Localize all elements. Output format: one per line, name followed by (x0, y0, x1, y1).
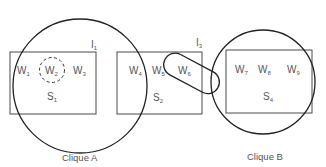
word-w3: W3 (73, 65, 86, 77)
word-w4: W4 (129, 65, 142, 77)
sentence-box-s1 (10, 52, 96, 114)
sentence-label-s1: S1 (47, 91, 58, 103)
i3-capsule (160, 49, 224, 97)
word-w7: W7 (235, 64, 248, 76)
sentence-label-s2: S2 (153, 92, 164, 104)
interface-label-i1: I1 (91, 39, 98, 51)
clique-a-circle (13, 19, 147, 153)
clique-b-circle (211, 30, 315, 134)
sentence-label-s4: S4 (263, 91, 274, 103)
word-w8: W8 (258, 64, 271, 76)
clique-diagram: W1 W2 W3 S1 W4 W5 W6 S2 W7 W8 W9 S4 I1 I… (0, 0, 326, 167)
word-w2: W2 (45, 65, 58, 77)
sentence-box-s2 (117, 52, 202, 114)
word-w6: W6 (178, 65, 191, 77)
caption-clique-a: Clique A (62, 152, 98, 163)
word-w9: W9 (287, 64, 300, 76)
caption-clique-b: Clique B (247, 151, 283, 162)
sentence-box-s4 (226, 50, 312, 113)
word-w1: W1 (17, 65, 30, 77)
interface-label-i3: I3 (196, 37, 203, 49)
